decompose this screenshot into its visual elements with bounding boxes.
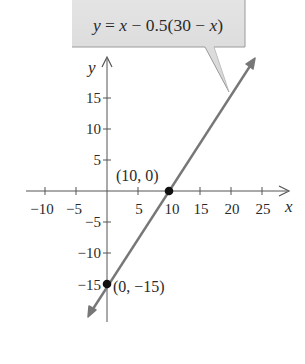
- y-tick-label: 5: [94, 152, 102, 168]
- x-axis-label: x: [284, 197, 293, 216]
- point-label-y-intercept: (0, −15): [113, 278, 165, 296]
- x-tick-label: 20: [225, 201, 240, 217]
- callout-shape: [72, 0, 245, 92]
- x-tick-label: 25: [256, 201, 271, 217]
- x-axis: −10 −5 5 10 15 20 25 x: [26, 186, 293, 217]
- point-x-intercept: [165, 187, 174, 196]
- x-tick-label: −10: [30, 201, 53, 217]
- x-tick-label: 15: [194, 201, 209, 217]
- y-tick-label: 15: [86, 90, 101, 106]
- x-tick-label: −5: [66, 201, 82, 217]
- y-tick-label: −5: [85, 214, 101, 230]
- x-tick-label: 10: [165, 201, 180, 217]
- line-arrow-up-icon: [246, 58, 255, 69]
- y-axis-label: y: [86, 58, 96, 77]
- equation-callout: y = x − 0.5(30 − x): [72, 0, 245, 92]
- x-tick-label: 5: [135, 201, 143, 217]
- y-tick-label: −10: [78, 245, 101, 261]
- point-y-intercept: [103, 280, 112, 289]
- y-tick-label: −15: [78, 277, 101, 293]
- y-tick-label: 10: [86, 121, 101, 137]
- point-label-x-intercept: (10, 0): [116, 167, 159, 185]
- equation-label: y = x − 0.5(30 − x): [91, 15, 223, 35]
- chart: y = x − 0.5(30 − x) −10 −5 5 10 15 20 25…: [0, 0, 305, 364]
